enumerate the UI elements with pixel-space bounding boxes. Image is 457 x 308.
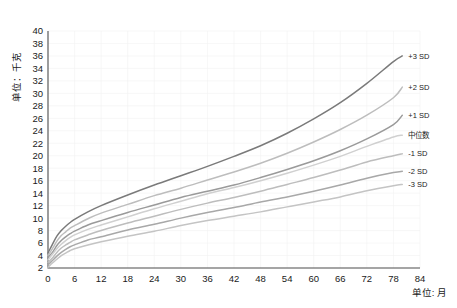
x-tick-label: 18	[122, 273, 133, 284]
x-tick-label: 78	[388, 273, 399, 284]
x-tick-label: 30	[176, 273, 187, 284]
curve-label: 中位数	[408, 130, 430, 140]
y-tick-label: 12	[32, 200, 43, 211]
curve-label: -2 SD	[408, 167, 428, 176]
x-tick-label: 12	[96, 273, 107, 284]
curve-label: +2 SD	[408, 83, 430, 92]
x-axis-title: 单位: 月	[412, 287, 447, 298]
y-tick-label: 18	[32, 163, 43, 174]
curve-label: +1 SD	[408, 111, 430, 120]
curve-label: -1 SD	[408, 149, 428, 158]
y-tick-label: 24	[32, 125, 43, 136]
y-tick-label: 30	[32, 88, 43, 99]
growth-chart: 246810121416182022242628303234363840 061…	[0, 0, 457, 308]
y-tick-label: 4	[38, 250, 43, 261]
y-tick-label: 8	[38, 225, 43, 236]
x-tick-label: 72	[362, 273, 373, 284]
x-tick-label: 66	[335, 273, 346, 284]
y-tick-label: 16	[32, 175, 43, 186]
x-tick-label: 36	[202, 273, 213, 284]
y-tick-label: 34	[32, 63, 43, 74]
growth-chart-svg: 246810121416182022242628303234363840 061…	[0, 0, 457, 308]
y-tick-label: 32	[32, 75, 43, 86]
x-tick-label: 60	[308, 273, 319, 284]
y-tick-label: 20	[32, 150, 43, 161]
x-tick-label: 84	[415, 273, 426, 284]
y-axis-title: 单位：千克	[11, 52, 22, 102]
y-tick-label: 14	[32, 188, 43, 199]
y-tick-label: 22	[32, 138, 43, 149]
x-tick-label: 42	[229, 273, 240, 284]
curve-labels: +3 SD+2 SD+1 SD中位数-1 SD-2 SD-3 SD	[408, 52, 430, 189]
y-tick-label: 10	[32, 213, 43, 224]
y-tick-label: 28	[32, 100, 43, 111]
y-tick-label: 40	[32, 25, 43, 36]
gridlines	[48, 31, 420, 268]
x-tick-label: 0	[45, 273, 50, 284]
x-tick-label: 54	[282, 273, 293, 284]
y-tick-label: 26	[32, 113, 43, 124]
y-tick-label: 2	[38, 262, 43, 273]
y-axis-ticks: 246810121416182022242628303234363840	[32, 25, 43, 273]
curve-label: +3 SD	[408, 52, 430, 61]
x-axis-ticks: 0612182430364248546066727884	[45, 273, 425, 284]
curve-label: -3 SD	[408, 180, 428, 189]
y-tick-label: 6	[38, 237, 43, 248]
x-tick-label: 24	[149, 273, 160, 284]
y-tick-label: 38	[32, 38, 43, 49]
y-tick-label: 36	[32, 50, 43, 61]
x-tick-label: 48	[255, 273, 266, 284]
x-tick-label: 6	[72, 273, 77, 284]
